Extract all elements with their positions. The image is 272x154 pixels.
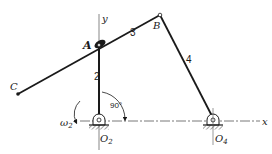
point-c — [16, 92, 20, 96]
point-o4-label: O4 — [215, 133, 228, 146]
link-2-label: 2 — [94, 71, 100, 82]
omega-arrow-icon — [74, 101, 80, 122]
link-3 — [18, 15, 160, 94]
joint-a — [98, 44, 101, 47]
link-3-label: 3 — [130, 27, 136, 38]
angle-label: 90° — [110, 101, 122, 110]
ground-pivot-o2 — [89, 114, 109, 130]
link-4-label: 4 — [186, 54, 192, 65]
omega-label: ω2 — [60, 117, 73, 130]
y-axis-label: y — [101, 13, 108, 24]
linkage-diagram: x y 2 3 4 A B C O2 O4 90° ω2 — [0, 0, 272, 154]
x-axis-label: x — [262, 116, 268, 127]
point-b-label: B — [152, 20, 160, 31]
link-4 — [160, 15, 213, 118]
point-a-label: A — [82, 39, 92, 52]
joint-b — [158, 13, 162, 17]
point-c-label: C — [10, 81, 18, 92]
point-o2-label: O2 — [100, 133, 113, 146]
